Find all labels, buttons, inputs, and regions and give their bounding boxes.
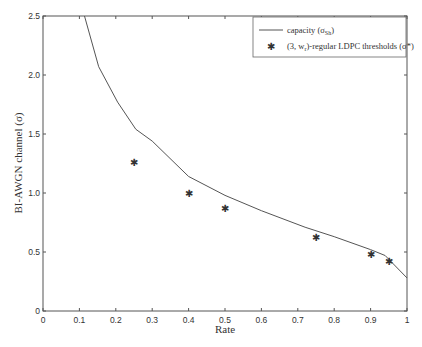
x-tick-label: 0.9 (365, 315, 377, 325)
x-axis-label: Rate (215, 323, 235, 335)
ldpc-threshold-point: ✱ (185, 188, 193, 199)
plot-axes (43, 16, 407, 311)
x-tick-label: 1 (405, 315, 410, 325)
x-tick-label: 0.6 (255, 315, 267, 325)
x-tick-label: 0.4 (183, 315, 195, 325)
ldpc-threshold-point: ✱ (312, 232, 320, 243)
y-tick-label: 0 (35, 306, 40, 316)
ldpc-threshold-point: ✱ (130, 157, 138, 168)
y-tick-label: 1.0 (28, 188, 40, 198)
y-tick-label: 2.0 (28, 70, 40, 80)
legend-asterisk-marker: ✱ (267, 41, 275, 52)
x-tick-label: 0.7 (292, 315, 304, 325)
x-axis-ticks: 00.10.20.30.40.50.60.70.80.91 (41, 16, 410, 325)
legend-box (253, 17, 406, 57)
x-tick-label: 0.1 (73, 315, 85, 325)
plot-frame (43, 16, 407, 311)
ldpc-threshold-point: ✱ (221, 203, 229, 214)
x-tick-label: 0.3 (146, 315, 158, 325)
legend: capacity (σSh) ✱ (3, wr)-regular LDPC th… (253, 17, 414, 57)
chart: 00.10.20.30.40.50.60.70.80.91 00.51.01.5… (0, 0, 422, 347)
x-tick-label: 0.2 (110, 315, 122, 325)
ldpc-threshold-point: ✱ (385, 256, 393, 267)
legend-ldpc-label: (3, wr)-regular LDPC thresholds (σ*) (287, 41, 414, 52)
y-tick-label: 0.5 (28, 247, 40, 257)
ldpc-threshold-point: ✱ (367, 249, 375, 260)
y-tick-label: 1.5 (28, 129, 40, 139)
y-tick-label: 2.5 (28, 11, 40, 21)
y-axis-label: BI-AWGN channel (σ) (12, 112, 25, 213)
x-tick-label: 0.8 (328, 315, 340, 325)
x-tick-label: 0 (41, 315, 46, 325)
